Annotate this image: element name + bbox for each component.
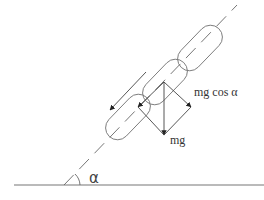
parallelogram-edge-left [138, 107, 164, 135]
parallelogram-edge-right [164, 107, 191, 135]
angle-label: α [89, 171, 99, 186]
incline-force-diagram [0, 0, 264, 200]
force-vectors [138, 82, 191, 135]
capsule-middle [138, 54, 193, 110]
normal-component-label: mg cos α [194, 86, 238, 98]
angle-arc [75, 174, 80, 185]
capsule-top [173, 20, 228, 76]
weight-label: mg [170, 134, 185, 146]
